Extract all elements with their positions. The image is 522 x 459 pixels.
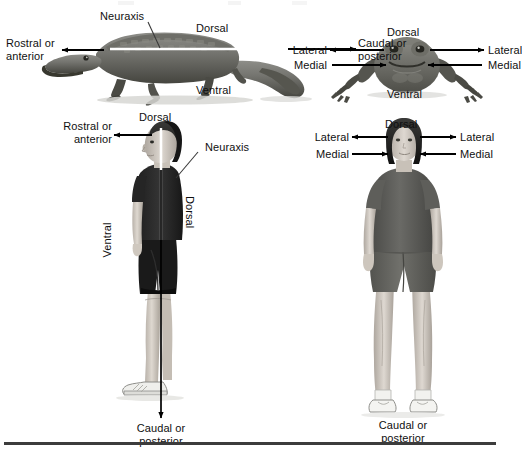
- female-caudal-label: Caudal or posterior: [363, 419, 443, 444]
- crocodile-neuraxis-label: Neuraxis: [100, 10, 144, 23]
- female-lateral-left-label: Lateral: [304, 131, 349, 144]
- male-ventral-side-label: Ventral: [101, 223, 114, 258]
- male-dorsal-top-label: Dorsal: [139, 111, 171, 124]
- female-dorsal-label: Dorsal: [385, 118, 417, 131]
- female-medial-right-label: Medial: [460, 148, 493, 161]
- crocodile-ventral-label: Ventral: [196, 84, 231, 97]
- frog-medial-left-label: Medial: [282, 59, 327, 72]
- male-dorsal-side-label: Dorsal: [184, 196, 197, 228]
- male-rostral-label: Rostral or anterior: [54, 120, 112, 145]
- crocodile-rostral-label: Rostral or anterior: [6, 37, 55, 62]
- frog-lateral-left-label: Lateral: [282, 44, 327, 57]
- human-female-illustration: [361, 118, 445, 418]
- female-lateral-right-label: Lateral: [460, 131, 494, 144]
- cropped-text-artifact: [118, 1, 307, 5]
- crocodile-dorsal-label: Dorsal: [196, 22, 228, 35]
- bottom-divider-rule: [4, 442, 496, 445]
- male-neuraxis-label: Neuraxis: [205, 141, 249, 154]
- frog-medial-right-label: Medial: [488, 59, 521, 72]
- frog-lateral-right-label: Lateral: [488, 44, 522, 57]
- crocodile-caudal-label: Caudal or posterior: [358, 37, 407, 62]
- human-male-illustration: [116, 121, 184, 401]
- frog-ventral-label: Ventral: [387, 88, 422, 101]
- crocodile-illustration: [42, 32, 312, 105]
- frog-dorsal-label: Dorsal: [387, 26, 419, 39]
- female-medial-left-label: Medial: [304, 148, 349, 161]
